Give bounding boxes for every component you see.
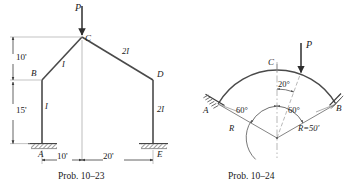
right-arch-angle-load-offset: 20° bbox=[278, 80, 290, 89]
right-arch-point-a: A bbox=[203, 106, 209, 115]
left-frame-point-e: E bbox=[157, 150, 163, 159]
left-frame-stiffness-right-column: 2I bbox=[157, 105, 164, 114]
right-arch-point-b: B bbox=[336, 104, 342, 113]
left-frame-point-c: C bbox=[85, 34, 91, 43]
right-arch-radius-left-label: R bbox=[229, 124, 234, 133]
right-arch-radius-right-label: R=50' bbox=[298, 124, 319, 133]
left-frame-load-label: P bbox=[75, 3, 81, 13]
left-figure-caption: Prob. 10–23 bbox=[58, 171, 104, 181]
left-frame-point-b: B bbox=[31, 69, 37, 78]
left-frame-stiffness-right-rafter: 2I bbox=[122, 47, 129, 56]
right-arch-center-point bbox=[276, 137, 278, 139]
left-frame-point-d: D bbox=[157, 70, 164, 79]
left-frame-point-a: A bbox=[38, 150, 44, 159]
left-frame-support-e bbox=[139, 144, 168, 149]
left-frame-stiffness-left-column: I bbox=[45, 102, 48, 111]
figure-vector-canvas bbox=[0, 0, 344, 188]
right-figure-caption: Prob. 10–24 bbox=[228, 171, 274, 181]
left-frame-geometry bbox=[42, 37, 153, 143]
left-frame-dim-upper-height: 10' bbox=[16, 53, 27, 62]
right-arch-point-c: C bbox=[268, 58, 274, 67]
left-frame-dim-left-span: 10' bbox=[57, 152, 68, 161]
right-arch-angle-left: 60° bbox=[236, 106, 248, 115]
right-arch-load-label: P bbox=[306, 40, 312, 50]
right-arch-angle-arc-left bbox=[246, 121, 255, 159]
left-frame-dim-lower-height: 15' bbox=[16, 106, 27, 115]
right-arch-angle-right: 60° bbox=[288, 106, 300, 115]
figure-sheet: P C B A D E 10' 15' 10' 20' I I 2I 2I P … bbox=[0, 0, 344, 188]
left-frame-dim-right-span: 20' bbox=[103, 152, 114, 161]
left-frame-support-a bbox=[28, 144, 57, 149]
left-frame-stiffness-left-rafter: I bbox=[62, 60, 65, 69]
